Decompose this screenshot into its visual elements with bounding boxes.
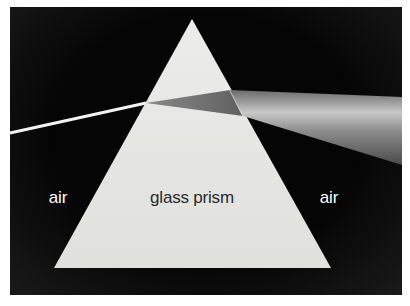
glass-prism — [54, 19, 331, 268]
label-air-right: air — [320, 188, 338, 208]
label-air-left: air — [49, 188, 67, 208]
label-glass-prism: glass prism — [150, 188, 234, 208]
prism-diagram — [0, 0, 410, 306]
incident-ray — [10, 103, 146, 133]
